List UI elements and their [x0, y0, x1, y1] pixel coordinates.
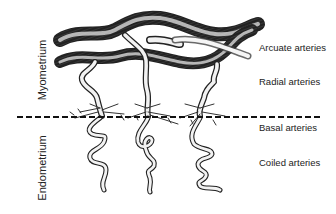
region-label-myometrium: Myometrium	[36, 40, 48, 101]
region-label-endometrium: Endometrium	[36, 135, 48, 200]
artery-illustration	[0, 0, 336, 214]
label-radial-arteries: Radial arteries	[259, 76, 320, 87]
coiled-arteries	[89, 118, 220, 192]
label-coiled-arteries: Coiled arteries	[259, 157, 320, 168]
uterine-arteries-diagram: Myometrium Endometrium Arcuate arteries …	[0, 0, 336, 214]
radial-arteries	[82, 35, 217, 116]
arcuate-arteries	[60, 18, 258, 64]
label-basal-arteries: Basal arteries	[259, 122, 317, 133]
label-arcuate-arteries: Arcuate arteries	[259, 42, 326, 53]
